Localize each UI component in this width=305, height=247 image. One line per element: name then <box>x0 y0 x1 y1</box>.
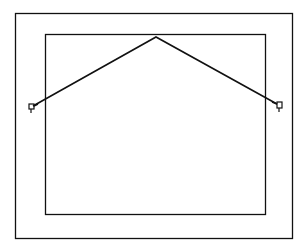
hanging-wire <box>33 37 277 106</box>
frame-diagram <box>0 0 305 247</box>
left-eye-hook-icon <box>29 104 38 113</box>
outer-frame <box>16 14 293 239</box>
right-eye-hook-icon <box>272 102 282 112</box>
inner-panel <box>46 35 266 215</box>
